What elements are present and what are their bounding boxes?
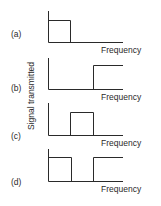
panel-d-response-low (49, 158, 72, 182)
panel-d-plot (49, 149, 124, 182)
panel-a-response (49, 21, 71, 43)
panel-b-axes (49, 58, 124, 90)
panel-a-axes (49, 11, 124, 43)
panel-b-response (94, 66, 124, 90)
panel-c-axes (49, 103, 124, 136)
panel-b-label: (b) (11, 83, 21, 93)
panel-d-axes (49, 149, 124, 182)
panel-c-x-label: Frequency (101, 138, 141, 148)
panel-b-x-label: Frequency (101, 92, 141, 102)
panel-c-response (71, 113, 94, 136)
panel-b-plot (49, 58, 124, 90)
panel-d-label: (d) (11, 177, 21, 187)
panel-a-label: (a) (11, 29, 21, 39)
panel-d-response-high (94, 158, 124, 182)
panel-c-plot (49, 103, 124, 136)
filter-diagram (0, 0, 161, 206)
panel-a-x-label: Frequency (101, 45, 141, 55)
panel-a-plot (49, 11, 124, 43)
panel-c-label: (c) (11, 131, 21, 141)
y-axis-label: Signal transmitted (26, 62, 36, 130)
panel-d-x-label: Frequency (101, 184, 141, 194)
